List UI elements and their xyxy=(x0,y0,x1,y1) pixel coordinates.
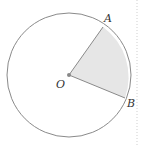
label-O: O xyxy=(56,78,65,91)
center-point xyxy=(67,73,71,77)
label-A: A xyxy=(103,12,112,25)
circle-sector-diagram: O A B xyxy=(0,0,144,145)
label-B: B xyxy=(126,97,135,110)
